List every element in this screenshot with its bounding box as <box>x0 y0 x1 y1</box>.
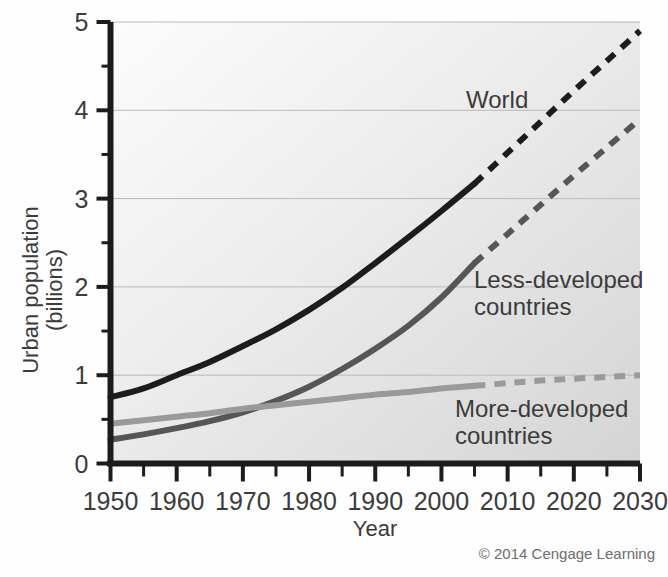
y-tick-label-3: 3 <box>75 185 89 213</box>
x-tick-label-2020: 2020 <box>546 487 602 515</box>
x-tick-label-1970: 1970 <box>215 487 271 515</box>
figure-container: 012345 195019601970198019902000201020202… <box>0 0 668 577</box>
copyright-credit: © 2014 Cengage Learning <box>479 545 655 562</box>
series-label-less-developed-line2: countries <box>474 293 571 320</box>
x-tick-label-2000: 2000 <box>414 487 470 515</box>
y-tick-label-1: 1 <box>75 361 89 389</box>
series-label-more-developed-line1: More-developed <box>455 395 628 422</box>
y-tick-label-5: 5 <box>75 8 89 36</box>
y-axis-title-line2: (billions) <box>42 249 67 331</box>
series-label-more-developed-line2: countries <box>455 422 552 449</box>
y-tick-label-4: 4 <box>75 96 89 124</box>
y-tick-label-0: 0 <box>75 450 89 478</box>
x-tick-label-1980: 1980 <box>281 487 337 515</box>
x-axis-tick-labels: 195019601970198019902000201020202030 <box>83 487 668 515</box>
x-tick-label-1950: 1950 <box>83 487 139 515</box>
y-axis-title-line1: Urban population <box>18 206 43 374</box>
x-tick-label-1960: 1960 <box>149 487 205 515</box>
y-axis-tick-labels: 012345 <box>75 8 89 478</box>
x-tick-label-2010: 2010 <box>480 487 536 515</box>
x-tick-label-2030: 2030 <box>612 487 668 515</box>
y-tick-label-2: 2 <box>75 273 89 301</box>
series-label-less-developed-line1: Less-developed <box>474 266 643 293</box>
series-label-world: World <box>466 86 528 113</box>
x-axis-title: Year <box>353 516 397 541</box>
urban-population-line-chart: 012345 195019601970198019902000201020202… <box>0 0 668 577</box>
x-tick-label-1990: 1990 <box>347 487 403 515</box>
